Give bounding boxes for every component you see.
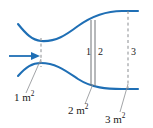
area-label-1-exponent: 2 xyxy=(31,90,35,98)
area-label-3: 3 m2 xyxy=(105,114,125,125)
right-arrow-icon xyxy=(9,52,40,60)
leader-line-area-2 xyxy=(85,84,93,104)
area-label-2-exponent: 2 xyxy=(85,103,89,111)
station-label-2: 2 xyxy=(98,47,103,57)
upper-duct-wall xyxy=(18,11,138,41)
area-label-1: 1 m2 xyxy=(14,92,34,103)
station-label-3: 3 xyxy=(131,47,136,57)
station-label-1: 1 xyxy=(86,47,91,57)
area-label-2-text: 2 m xyxy=(68,104,85,116)
area-label-3-exponent: 2 xyxy=(122,112,126,120)
area-label-1-text: 1 m xyxy=(14,91,31,103)
area-label-3-text: 3 m xyxy=(105,113,122,125)
area-label-2: 2 m2 xyxy=(68,105,88,116)
duct-flow-diagram: 1 m2 2 m2 3 m2 1 2 3 xyxy=(0,0,153,128)
lower-duct-wall xyxy=(18,63,138,89)
